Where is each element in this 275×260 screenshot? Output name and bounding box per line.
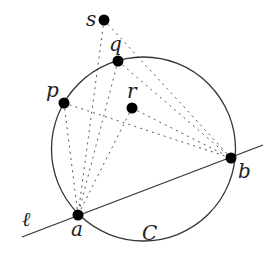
geometry-diagram: C ℓ sqprba bbox=[0, 0, 275, 260]
dotted-segment-q-a bbox=[78, 61, 118, 215]
point-label-q: q bbox=[109, 32, 122, 56]
point-labels: sqprba bbox=[46, 7, 251, 241]
point-label-s: s bbox=[86, 7, 96, 31]
point-label-b: b bbox=[238, 159, 251, 183]
dotted-segment-r-a bbox=[78, 108, 132, 215]
dotted-segment-s-b bbox=[104, 20, 231, 158]
point-r bbox=[127, 103, 138, 114]
point-b bbox=[226, 153, 237, 164]
point-label-a: a bbox=[71, 217, 83, 241]
line-label: ℓ bbox=[22, 207, 31, 231]
point-p bbox=[59, 98, 70, 109]
dotted-segment-s-a bbox=[78, 20, 104, 215]
dotted-segment-r-b bbox=[132, 108, 231, 158]
point-label-p: p bbox=[46, 78, 59, 102]
circle-label: C bbox=[142, 221, 157, 245]
point-q bbox=[113, 56, 124, 67]
point-label-r: r bbox=[127, 79, 138, 103]
dotted-segments bbox=[64, 20, 231, 215]
point-s bbox=[99, 15, 110, 26]
